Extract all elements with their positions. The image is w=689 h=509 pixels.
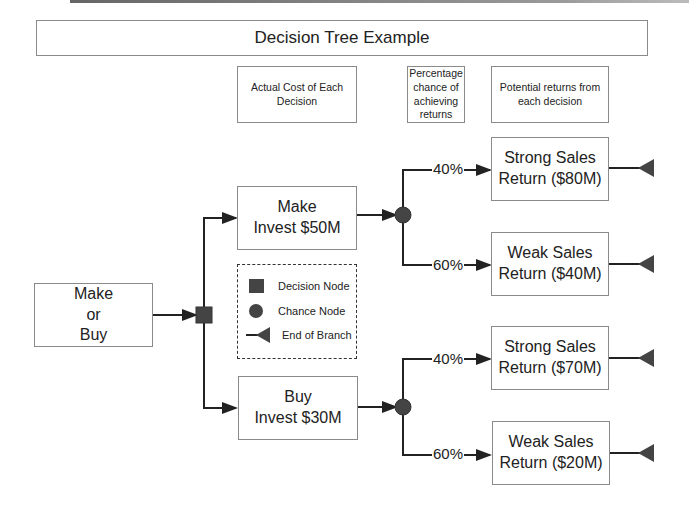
option-make-invest: Invest $50M [253,218,340,239]
root-line-2: or [86,305,100,326]
outcome-buy-weak: Weak Sales Return ($20M) [492,421,610,485]
root-line-3: Buy [80,325,108,346]
legend: Decision Node Chance Node End of Branch [237,264,357,359]
pct-buy-weak: 60% [432,445,464,462]
pct-make-weak: 60% [432,256,464,273]
legend-chance-label: Chance Node [278,305,345,317]
option-buy: Buy Invest $30M [238,376,358,440]
chance-node-make [395,207,411,223]
legend-end-label: End of Branch [282,329,352,341]
option-make-name: Make [277,197,316,218]
root-line-1: Make [74,284,113,305]
legend-end: End of Branch [246,327,352,343]
decision-node-icon [246,278,268,294]
end-branch-4 [638,444,654,462]
outcome-label: Weak Sales [508,432,593,453]
legend-decision: Decision Node [246,278,350,294]
chance-node-buy [395,399,411,415]
outcome-return: Return ($20M) [499,453,602,474]
outcome-make-weak: Weak Sales Return ($40M) [491,232,609,296]
option-buy-name: Buy [284,387,312,408]
option-buy-invest: Invest $30M [254,408,341,429]
option-make: Make Invest $50M [237,186,357,250]
end-of-branch-icon [246,327,272,343]
chance-node-icon [246,303,268,319]
end-branch-2 [638,255,654,273]
root-node-make-or-buy: Make or Buy [34,283,153,347]
outcome-label: Strong Sales [504,337,596,358]
pct-make-strong: 40% [432,160,464,177]
legend-decision-label: Decision Node [278,280,350,292]
end-branch-3 [638,349,654,367]
outcome-buy-strong: Strong Sales Return ($70M) [491,326,609,390]
pct-buy-strong: 40% [432,350,464,367]
legend-chance: Chance Node [246,303,345,319]
end-branch-1 [638,159,654,177]
decision-node [196,307,212,323]
outcome-label: Weak Sales [507,243,592,264]
outcome-return: Return ($40M) [498,264,601,285]
outcome-label: Strong Sales [504,148,596,169]
outcome-return: Return ($70M) [498,358,601,379]
outcome-make-strong: Strong Sales Return ($80M) [491,137,609,201]
outcome-return: Return ($80M) [498,169,601,190]
